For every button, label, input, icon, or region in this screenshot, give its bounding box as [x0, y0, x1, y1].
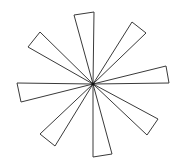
radial-triangle-star: [0, 0, 180, 166]
triangle-left-lower: [17, 83, 93, 102]
triangle-right-upper: [93, 66, 169, 84]
triangle-bottom-left: [40, 84, 93, 146]
diagram-canvas: [0, 0, 180, 166]
triangle-left-upper: [28, 32, 93, 84]
center-hub: [91, 82, 94, 85]
triangle-bottom-right: [93, 84, 112, 157]
triangle-right-lower: [93, 84, 158, 135]
triangle-top-right: [93, 22, 146, 84]
triangle-top: [74, 12, 94, 84]
